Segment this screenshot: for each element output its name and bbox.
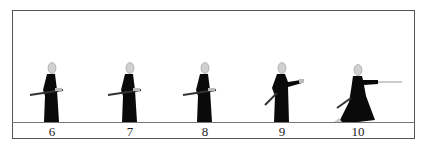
figure-10 (333, 60, 426, 124)
frame-label-10: 10 (343, 124, 373, 140)
frame-label-9: 9 (267, 124, 297, 140)
frame-label-8: 8 (190, 124, 220, 140)
frame-label-7: 7 (115, 124, 145, 140)
frame-label-6: 6 (37, 124, 67, 140)
